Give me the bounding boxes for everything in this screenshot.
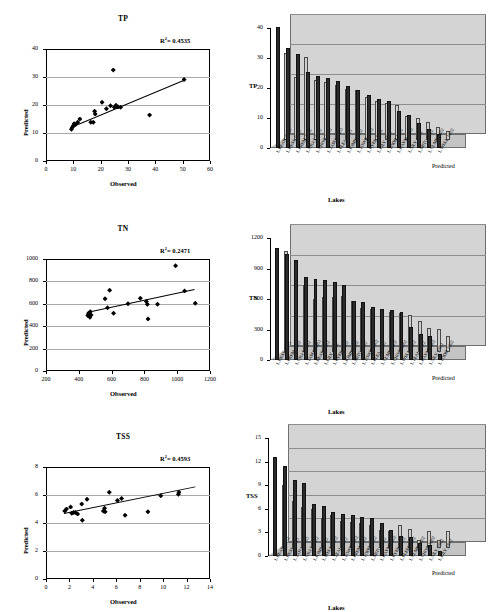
bar-tss-xlabel: Lakes	[328, 604, 345, 611]
y-axis	[268, 438, 269, 556]
x-tick-label: 14	[207, 584, 213, 590]
y-tick	[267, 238, 270, 239]
bar-observed	[342, 285, 346, 360]
bar-tss-ylabel: TSS	[246, 492, 258, 499]
bar-observed	[275, 248, 279, 360]
bar-observed	[314, 279, 318, 360]
x-tick-label: 10	[160, 584, 166, 590]
scatter-tp-title: TP	[0, 14, 246, 23]
y-tick	[267, 330, 270, 331]
scatter-tp-r2: R2= 0.4535	[160, 36, 190, 44]
y-tick-label: 0	[35, 367, 38, 373]
bar-tss-depth-label: Predicted	[432, 570, 455, 576]
scatter-plot-tp: TP R2= 0.4535 Predicted Observed 0102030…	[0, 14, 246, 204]
y-tick	[265, 485, 268, 486]
x-tick	[112, 371, 113, 374]
y-tick-label: 1000	[26, 255, 38, 261]
scatter-tss-title: TSS	[0, 432, 246, 441]
gridline	[46, 105, 210, 106]
x-tick	[79, 371, 80, 374]
bar-observed	[356, 90, 360, 148]
y-tick	[265, 556, 268, 557]
x-tick	[46, 371, 47, 374]
bar-observed	[346, 86, 350, 148]
x-tick-label: 30	[125, 166, 131, 172]
x-tick	[140, 579, 141, 582]
gridline	[46, 349, 210, 350]
bar-observed	[326, 78, 330, 148]
bar-observed	[306, 72, 310, 148]
y-tick-label: 10	[32, 129, 38, 135]
x-tick-label: 0	[45, 584, 48, 590]
y-tick	[267, 360, 270, 361]
gridline	[290, 14, 486, 15]
x-tick	[144, 371, 145, 374]
x-tick	[163, 579, 164, 582]
y-tick-label: 3	[258, 528, 261, 534]
y-tick	[265, 438, 268, 439]
bar-observed	[312, 504, 316, 556]
x-tick-label: 6	[115, 584, 118, 590]
x-tick-label: 40	[152, 166, 158, 172]
gridline	[290, 74, 486, 75]
y-tick-label: 0	[260, 356, 263, 362]
gridline	[46, 326, 210, 327]
bar-observed	[400, 312, 404, 360]
y-tick-label: 0	[35, 157, 38, 163]
x-tick-label: 20	[98, 166, 104, 172]
bar-observed	[322, 506, 326, 556]
x-tick-label: 0	[45, 166, 48, 172]
y-tick	[267, 299, 270, 300]
gridline	[288, 495, 486, 496]
x-tick-label: 4	[91, 584, 94, 590]
y-tick	[267, 88, 270, 89]
x-tick	[73, 161, 74, 164]
bar-observed	[316, 76, 320, 148]
bar-observed	[304, 277, 308, 360]
scatter-tss-r2: R2= 0.4593	[160, 454, 190, 462]
y-tick-label: 300	[254, 326, 263, 332]
y-tick	[43, 304, 46, 305]
bar-observed	[371, 307, 375, 360]
bar-observed	[323, 280, 327, 360]
scatter-plot-tn: TN R2= 0.2471 Predicted Observed 0200400…	[0, 224, 246, 414]
y-tick	[43, 105, 46, 106]
x-tick	[210, 161, 211, 164]
bar-observed	[390, 310, 394, 360]
y-tick-label: 4	[35, 519, 38, 525]
scatter-tn-ylabel: Predicted	[22, 319, 29, 346]
gridline	[288, 518, 486, 519]
y-tick	[43, 495, 46, 496]
bar-observed	[294, 260, 298, 360]
bar-observed	[377, 99, 381, 148]
y-tick-label: 15	[255, 434, 261, 440]
bar-observed	[293, 480, 297, 556]
y-tick	[265, 462, 268, 463]
x-tick	[93, 579, 94, 582]
x-tick	[177, 371, 178, 374]
gridline	[290, 255, 486, 256]
y-tick	[267, 269, 270, 270]
bar-observed	[367, 95, 371, 148]
x-tick-label: 2	[68, 584, 71, 590]
gridline	[288, 448, 486, 449]
bar-observed	[331, 512, 335, 556]
y-tick-label: 30	[257, 54, 263, 60]
y-tick-label: 30	[32, 73, 38, 79]
bar-observed	[370, 518, 374, 556]
y-tick-label: 6	[258, 505, 261, 511]
y-tick-label: 10	[257, 114, 263, 120]
x-tick-label: 8	[138, 584, 141, 590]
bar-observed	[352, 301, 356, 360]
x-tick-label: 600	[107, 376, 116, 382]
bar-observed	[341, 514, 345, 556]
scatter-tp-xlabel: Observed	[110, 180, 137, 187]
y-tick	[43, 467, 46, 468]
x-tick	[128, 161, 129, 164]
x-tick	[69, 579, 70, 582]
y-axis	[270, 238, 271, 360]
bar-observed	[333, 282, 337, 360]
scatter-tn-plotarea	[46, 259, 210, 371]
y-tick	[43, 259, 46, 260]
gridline	[46, 281, 210, 282]
